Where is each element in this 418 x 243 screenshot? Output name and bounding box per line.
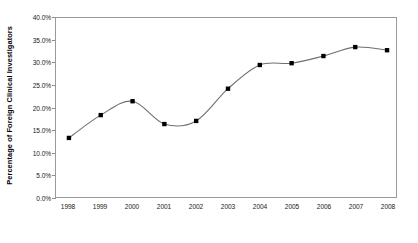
y-axis-title-label: Percentage of Foreign Clinical Investiga… — [6, 26, 13, 185]
y-axis-tick-label: 20.0% — [33, 104, 51, 111]
data-point-marker: 2002: 17% — [194, 119, 198, 123]
x-axis-tick-label: 2000 — [125, 203, 139, 210]
data-point-marker: 2005: 29.9% — [289, 61, 293, 65]
chart-screenshot: Percentage of Foreign Clinical Investiga… — [0, 0, 418, 243]
y-axis-tick-label: 30.0% — [33, 59, 51, 66]
plot-area: 1998: 13.2%1999: 18.3%2000: 21.4%2001: 1… — [55, 17, 397, 198]
data-point-marker: 1999: 18.3% — [99, 113, 103, 117]
x-axis-tick-label: 2005 — [285, 203, 299, 210]
y-axis-tick-label: 25.0% — [33, 81, 51, 88]
y-axis-tick-label: 0.0% — [36, 195, 51, 202]
data-point-marker: 2006: 31.5% — [321, 54, 325, 58]
y-axis-tick-mark — [52, 198, 56, 199]
data-point-marker: 2007: 33.5% — [353, 45, 357, 49]
data-point-marker: 1998: 13.2% — [67, 136, 71, 140]
data-point-marker: 2001: 16.3% — [162, 122, 166, 126]
x-axis-tick-label: 2003 — [221, 203, 235, 210]
x-axis-tick-label: 2004 — [253, 203, 267, 210]
series-data-point-markers: 1998: 13.2%1999: 18.3%2000: 21.4%2001: 1… — [67, 45, 390, 140]
y-axis-tick-label: 5.0% — [36, 172, 51, 179]
x-axis-tick-labels: 1998199920002001200220032004200520062007… — [55, 203, 397, 223]
x-axis-tick-label: 2006 — [317, 203, 331, 210]
x-axis-tick-label: 2002 — [189, 203, 203, 210]
x-axis-tick-label: 2007 — [349, 203, 363, 210]
series-line-path — [69, 47, 387, 138]
data-point-marker: 2000: 21.4% — [130, 99, 134, 103]
y-axis-tick-labels: 0.0%5.0%10.0%15.0%20.0%25.0%30.0%35.0%40… — [20, 0, 53, 243]
y-axis-title: Percentage of Foreign Clinical Investiga… — [0, 0, 20, 210]
data-point-marker: 2008: 32.8% — [385, 48, 389, 52]
data-point-marker: 2003: 24.2% — [226, 87, 230, 91]
y-axis-tick-label: 10.0% — [33, 149, 51, 156]
y-axis-tick-label: 40.0% — [33, 14, 51, 21]
x-axis-tick-label: 2001 — [157, 203, 171, 210]
x-axis-tick-label: 1998 — [61, 203, 75, 210]
x-axis-tick-label: 1999 — [93, 203, 107, 210]
y-axis-tick-label: 15.0% — [33, 127, 51, 134]
data-point-marker: 2004: 29.5% — [258, 63, 262, 67]
x-axis-tick-label: 2008 — [381, 203, 395, 210]
y-axis-tick-label: 35.0% — [33, 36, 51, 43]
line-chart-svg: 1998: 13.2%1999: 18.3%2000: 21.4%2001: 1… — [56, 18, 396, 197]
